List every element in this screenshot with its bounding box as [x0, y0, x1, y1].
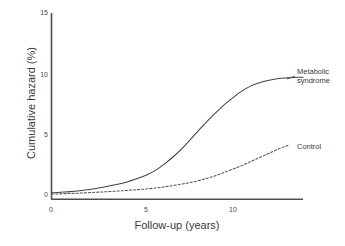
series-annotation-metabolic-line1: Metabolic: [297, 67, 330, 76]
x-tick-label-0: 0: [40, 206, 62, 213]
x-tick-label-10: 10: [222, 206, 244, 213]
cumulative-hazard-chart: 15 10 5 0 0 5 10 Cumulative hazard (%) F…: [0, 0, 345, 246]
series-line-control: [52, 145, 288, 194]
x-axis-title: Follow-up (years): [51, 219, 303, 231]
series-annotation-control: Control: [297, 142, 321, 151]
series-annotation-metabolic-syndrome: Metabolic syndrome: [297, 67, 330, 85]
y-tick-label-0: 0: [26, 191, 48, 198]
series-annotation-metabolic-line2: syndrome: [297, 76, 330, 85]
y-tick-label-15: 15: [26, 9, 48, 16]
y-axis-title: Cumulative hazard (%): [25, 23, 37, 183]
series-line-metabolic-syndrome: [52, 77, 304, 193]
x-tick-label-5: 5: [135, 206, 157, 213]
